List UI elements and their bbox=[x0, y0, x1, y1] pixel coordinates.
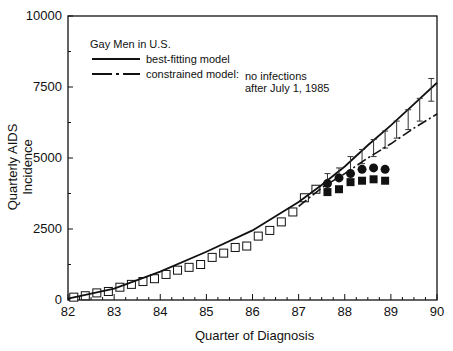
x-tick-label: 87 bbox=[284, 304, 314, 319]
filled-circle-marker bbox=[323, 179, 332, 188]
best-fit-line bbox=[68, 83, 437, 299]
filled-circle-marker bbox=[358, 165, 367, 174]
legend-heading: Gay Men in U.S. bbox=[90, 38, 171, 50]
open-square-marker bbox=[231, 243, 239, 251]
open-square-marker bbox=[289, 208, 297, 216]
x-tick-label: 88 bbox=[330, 304, 360, 319]
legend-label-constrained: constrained model: bbox=[146, 68, 239, 80]
open-square-marker bbox=[208, 253, 216, 261]
open-square-marker bbox=[197, 261, 205, 269]
open-square-marker bbox=[162, 270, 170, 278]
filled-square-marker bbox=[335, 185, 343, 193]
y-tick-label: 7500 bbox=[0, 79, 62, 94]
filled-circle-marker bbox=[334, 173, 343, 182]
open-square-marker bbox=[185, 263, 193, 271]
filled-circle-marker bbox=[346, 169, 355, 178]
legend-note-2: after July 1, 1985 bbox=[245, 82, 329, 94]
open-square-marker bbox=[254, 232, 262, 240]
x-axis-label: Quarter of Diagnosis bbox=[195, 328, 314, 343]
filled-square-marker bbox=[323, 188, 331, 196]
filled-square-marker bbox=[381, 177, 389, 185]
open-square-marker bbox=[174, 266, 182, 274]
x-tick-label: 84 bbox=[145, 304, 175, 319]
x-tick-label: 83 bbox=[99, 304, 129, 319]
filled-square-marker bbox=[347, 178, 355, 186]
y-tick-label: 10000 bbox=[0, 8, 62, 23]
legend-entry-best: best-fitting model bbox=[92, 53, 230, 65]
filled-square-marker bbox=[358, 177, 366, 185]
solid-line-swatch bbox=[92, 58, 140, 60]
x-tick-label: 86 bbox=[238, 304, 268, 319]
x-tick-label: 82 bbox=[53, 304, 83, 319]
open-square-marker bbox=[150, 275, 158, 283]
open-square-marker bbox=[266, 226, 274, 234]
legend-entry-constrained: constrained model: bbox=[92, 68, 239, 80]
filled-square-marker bbox=[370, 175, 378, 183]
legend-note-1: no infections bbox=[245, 70, 307, 82]
open-square-marker bbox=[220, 249, 228, 257]
filled-circle-marker bbox=[369, 163, 378, 172]
y-axis-label: Quarterly AIDS Incidence bbox=[5, 97, 35, 237]
x-tick-label: 85 bbox=[191, 304, 221, 319]
x-tick-label: 90 bbox=[422, 304, 452, 319]
open-square-marker bbox=[243, 242, 251, 250]
filled-circle-marker bbox=[381, 165, 390, 174]
y-tick-label: 5000 bbox=[0, 150, 62, 165]
dashdot-line-swatch bbox=[92, 73, 140, 75]
legend-label-best: best-fitting model bbox=[146, 53, 230, 65]
y-tick-label: 2500 bbox=[0, 221, 62, 236]
open-square-marker bbox=[277, 218, 285, 226]
x-tick-label: 89 bbox=[376, 304, 406, 319]
